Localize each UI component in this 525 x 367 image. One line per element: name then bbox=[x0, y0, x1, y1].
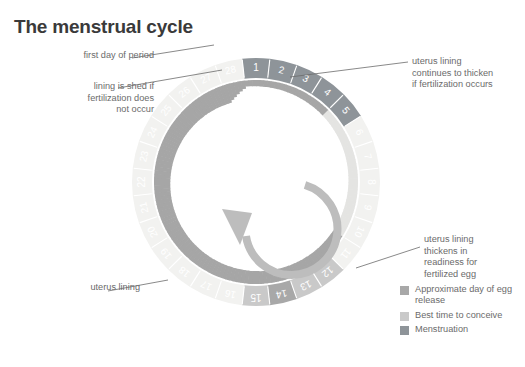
lining-segment-1 bbox=[252, 80, 256, 86]
legend-item-best-time-to-conceive: Best time to conceive bbox=[400, 310, 525, 321]
day-number-8: 8 bbox=[366, 179, 377, 185]
callout-lining-is-shed: lining is shed if fertilization does not… bbox=[20, 81, 154, 116]
cycle-direction-arrow bbox=[222, 185, 337, 275]
lining-segment-22 bbox=[154, 181, 170, 185]
day-number-1: 1 bbox=[253, 62, 259, 73]
callout-uterus-lining: uterus lining bbox=[46, 282, 140, 294]
callout-lining-thickens-readiness: uterus lining thickens in readiness for … bbox=[424, 234, 522, 280]
legend-item-egg-release: Approximate day of egg release bbox=[400, 284, 525, 307]
legend-label-menstruation: Menstruation bbox=[415, 324, 468, 335]
legend-label-best-time-to-conceive: Best time to conceive bbox=[415, 310, 502, 321]
page-title: The menstrual cycle bbox=[14, 16, 193, 38]
day-number-22: 22 bbox=[136, 176, 147, 188]
legend-label-egg-release: Approximate day of egg release bbox=[415, 284, 525, 307]
callout-lining-continues-to-thicken: uterus lining continues to thicken if fe… bbox=[412, 56, 524, 91]
legend-swatch-best-time-to-conceive bbox=[400, 312, 409, 321]
legend-item-menstruation: Menstruation bbox=[400, 324, 525, 335]
legend: Approximate day of egg release Best time… bbox=[400, 284, 525, 339]
day-number-15: 15 bbox=[250, 292, 262, 303]
lining-segment-15 bbox=[255, 271, 259, 284]
legend-swatch-menstruation bbox=[400, 326, 409, 335]
legend-swatch-egg-release bbox=[400, 286, 409, 295]
lining-segment-8 bbox=[348, 178, 358, 182]
diagram-canvas: 1234567891011121314151617181920212223242… bbox=[0, 0, 525, 367]
callout-first-day-of-period: first day of period bbox=[36, 50, 154, 62]
day-tick-marks bbox=[134, 60, 378, 304]
